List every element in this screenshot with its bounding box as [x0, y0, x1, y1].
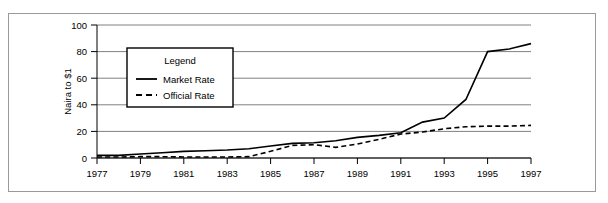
- legend-label-market-rate: Market Rate: [163, 74, 215, 85]
- x-tick-label-1983: 1983: [217, 168, 238, 179]
- y-tick-label-0: 0: [82, 153, 87, 164]
- x-axis: 1977 1979 1981 1983 1985 1987 1989 1991 …: [86, 158, 541, 179]
- x-tick-label-1997: 1997: [520, 168, 541, 179]
- y-tick-label-60: 60: [76, 73, 87, 84]
- x-tick-label-1981: 1981: [173, 168, 194, 179]
- x-tick-label-1987: 1987: [303, 168, 324, 179]
- y-axis-title: Naira to $1: [62, 68, 73, 114]
- legend-title: Legend: [164, 55, 196, 66]
- x-tick-label-1993: 1993: [434, 168, 455, 179]
- x-tick-label-1989: 1989: [347, 168, 368, 179]
- y-tick-label-80: 80: [76, 46, 87, 57]
- legend-label-official-rate: Official Rate: [163, 90, 215, 101]
- chart-legend: Legend Market Rate Official Rate: [127, 48, 233, 107]
- x-tick-label-1995: 1995: [477, 168, 498, 179]
- y-tick-label-40: 40: [76, 99, 87, 110]
- chart-figure: 0 20 40 60 80 100 Naira to $1 1977 1979 …: [0, 0, 608, 203]
- y-axis: 0 20 40 60 80 100 Naira to $1: [62, 20, 97, 164]
- x-tick-label-1979: 1979: [130, 168, 151, 179]
- x-tick-label-1977: 1977: [86, 168, 107, 179]
- line-chart: 0 20 40 60 80 100 Naira to $1 1977 1979 …: [0, 0, 608, 203]
- y-tick-label-20: 20: [76, 126, 87, 137]
- x-tick-label-1985: 1985: [260, 168, 281, 179]
- x-tick-label-1991: 1991: [390, 168, 411, 179]
- y-tick-label-100: 100: [71, 20, 87, 31]
